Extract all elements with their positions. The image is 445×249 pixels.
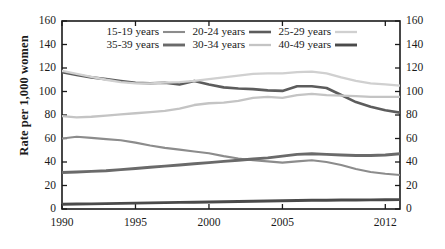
x-axis-tick-label: 2005 (260, 217, 304, 229)
y-axis-tick-label-right: 140 (406, 39, 436, 51)
legend-label: 35-39 years (85, 39, 159, 50)
y-axis-tick-label-left: 0 (26, 203, 56, 215)
legend-label: 40-49 years (257, 39, 331, 50)
y-axis-tick-label-left: 120 (26, 62, 56, 74)
y-axis-tick-label-right: 160 (406, 15, 436, 27)
y-axis-tick-label-left: 160 (26, 15, 56, 27)
chart-figure: Rate per 1,000 women 0020204040606080801… (0, 0, 445, 249)
x-axis-tick-label: 1990 (40, 217, 84, 229)
x-axis-tick-label: 2000 (187, 217, 231, 229)
legend-label: 20-24 years (171, 26, 245, 37)
y-axis-tick-label-left: 20 (26, 180, 56, 192)
y-axis-tick-label-right: 60 (406, 133, 436, 145)
y-axis-tick-label-right: 40 (406, 156, 436, 168)
y-axis-tick-label-right: 0 (406, 203, 436, 215)
y-axis-tick-label-left: 100 (26, 86, 56, 98)
y-axis-tick-label-left: 80 (26, 109, 56, 121)
y-axis-tick-label-left: 60 (26, 133, 56, 145)
y-axis-tick-label-right: 100 (406, 86, 436, 98)
y-axis-tick-label-left: 40 (26, 156, 56, 168)
y-axis-tick-label-right: 120 (406, 62, 436, 74)
legend-label: 15-19 years (85, 26, 159, 37)
y-axis-tick-label-right: 20 (406, 180, 436, 192)
legend-label: 30-34 years (171, 39, 245, 50)
x-axis-tick-label: 2012 (363, 217, 407, 229)
y-axis-tick-label-right: 80 (406, 109, 436, 121)
y-axis-tick-label-left: 140 (26, 39, 56, 51)
x-axis-tick-label: 1995 (113, 217, 157, 229)
legend-label: 25-29 years (257, 26, 331, 37)
